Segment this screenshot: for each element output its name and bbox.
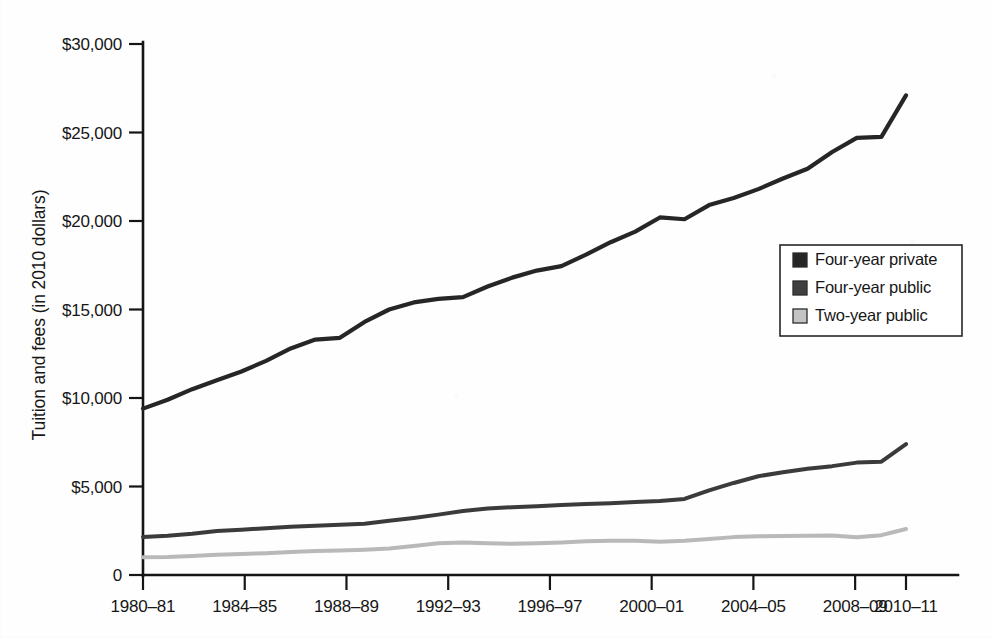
y-tick-label: $15,000 bbox=[62, 301, 122, 320]
x-tick-label: 1992–93 bbox=[416, 597, 481, 616]
series-line-1 bbox=[143, 444, 906, 537]
x-tick-label: 2004–05 bbox=[721, 597, 786, 616]
legend-label: Four-year public bbox=[815, 278, 931, 296]
x-axis-ticks: 1980–811984–851988–891992–931996–972000–… bbox=[111, 575, 938, 616]
chart-legend[interactable]: Four-year privateFour-year publicTwo-yea… bbox=[780, 245, 962, 336]
x-tick-label: 2000–01 bbox=[619, 597, 684, 616]
legend-swatch bbox=[793, 281, 807, 295]
y-tick-label: $10,000 bbox=[62, 389, 122, 408]
y-tick-label: 0 bbox=[113, 566, 122, 585]
legend-label: Two-year public bbox=[815, 306, 928, 324]
legend-swatch bbox=[793, 253, 807, 267]
x-tick-label: 1980–81 bbox=[111, 597, 176, 616]
y-tick-label: $5,000 bbox=[71, 478, 122, 497]
y-tick-label: $30,000 bbox=[62, 35, 122, 54]
chart-container: Tuition and fees (in 2010 dollars) 0$5,0… bbox=[0, 0, 992, 638]
x-tick-label: 1988–89 bbox=[314, 597, 379, 616]
x-tick-label: 2010–11 bbox=[874, 597, 938, 616]
y-axis-title: Tuition and fees (in 2010 dollars) bbox=[29, 190, 49, 441]
line-chart: Tuition and fees (in 2010 dollars) 0$5,0… bbox=[0, 0, 992, 638]
series-line-2 bbox=[143, 529, 906, 557]
legend-label: Four-year private bbox=[815, 250, 937, 268]
x-tick-label: 1984–85 bbox=[212, 597, 277, 616]
y-tick-label: $20,000 bbox=[62, 212, 122, 231]
y-tick-label: $25,000 bbox=[62, 124, 122, 143]
x-tick-label: 1996–97 bbox=[518, 597, 583, 616]
y-axis-ticks: 0$5,000$10,000$15,000$20,000$25,000$30,0… bbox=[62, 35, 143, 585]
legend-swatch bbox=[793, 309, 807, 323]
